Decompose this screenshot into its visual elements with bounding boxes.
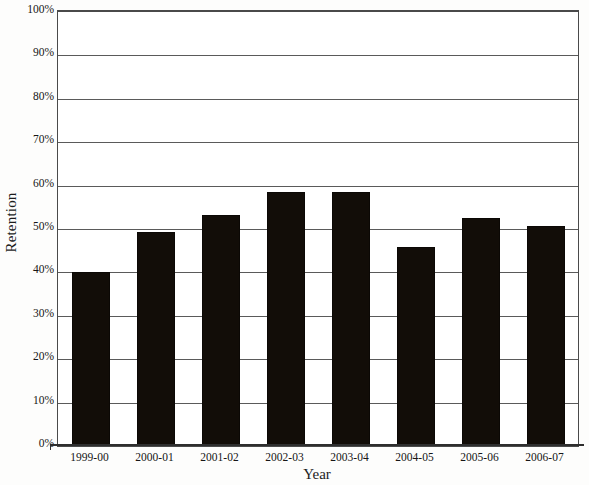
y-tick-label: 70% (33, 134, 54, 146)
bar[interactable] (397, 247, 435, 446)
y-tick-label: 40% (33, 265, 54, 277)
y-axis-title: Retention (0, 0, 22, 444)
bar[interactable] (267, 192, 305, 446)
plot-area (57, 10, 579, 447)
bar[interactable] (137, 232, 175, 446)
x-tick-label: 2000-01 (122, 450, 187, 464)
x-tick-label: 2002-03 (252, 450, 317, 464)
x-tick-label: 2006-07 (512, 450, 577, 464)
y-axis-title-label: Retention (3, 192, 20, 252)
bar[interactable] (462, 218, 500, 446)
y-tick-label: 80% (33, 91, 54, 103)
y-axis-tick-labels: 0%10%20%30%40%50%60%70%80%90%100% (20, 0, 56, 454)
bar[interactable] (202, 215, 240, 446)
y-tick-label: 30% (33, 308, 54, 320)
y-tick-label: 100% (27, 4, 54, 16)
y-tick-label: 60% (33, 178, 54, 190)
x-tick-label: 2003-04 (317, 450, 382, 464)
x-tick-label: 1999-00 (57, 450, 122, 464)
x-tick-label: 2001-02 (187, 450, 252, 464)
y-tick-label: 50% (33, 221, 54, 233)
y-tick-label: 90% (33, 48, 54, 60)
y-tick-label: 20% (33, 351, 54, 363)
x-axis-origin-tick (50, 444, 51, 450)
x-axis-title: Year (57, 466, 577, 483)
y-tick-label: 10% (33, 395, 54, 407)
x-tick-label: 2005-06 (447, 450, 512, 464)
bar[interactable] (332, 192, 370, 446)
bars-layer (58, 12, 578, 446)
bar[interactable] (527, 226, 565, 446)
bar[interactable] (72, 272, 110, 446)
retention-bar-chart: Retention 0%10%20%30%40%50%60%70%80%90%1… (0, 0, 589, 485)
x-axis-line (50, 444, 584, 446)
x-tick-label: 2004-05 (382, 450, 447, 464)
